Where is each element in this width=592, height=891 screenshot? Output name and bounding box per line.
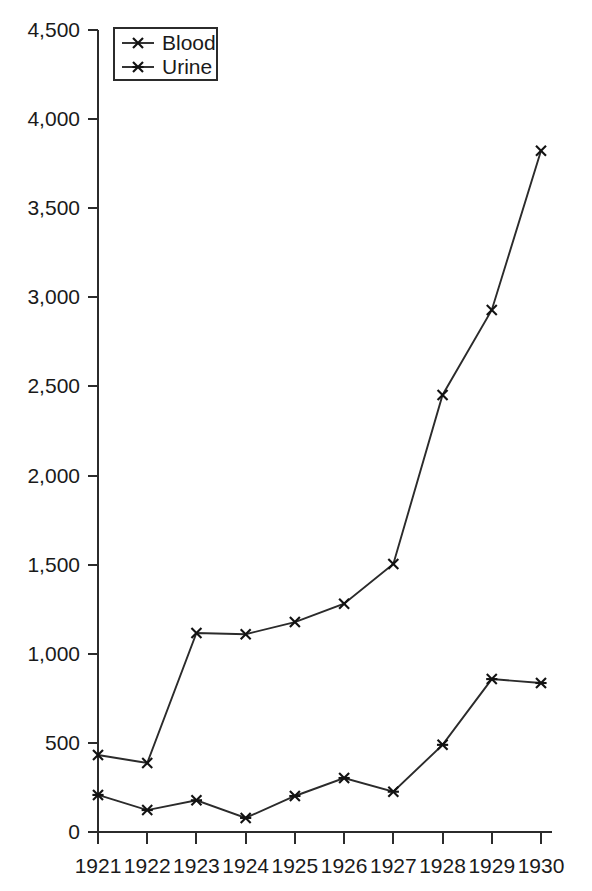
x-tick-label: 1928 bbox=[419, 854, 466, 877]
data-point-marker bbox=[437, 740, 448, 750]
y-tick-label: 2,000 bbox=[27, 464, 80, 487]
legend-label: Urine bbox=[162, 55, 212, 78]
y-tick-label: 1,000 bbox=[27, 642, 80, 665]
y-tick-label: 1,500 bbox=[27, 553, 80, 576]
data-point-marker bbox=[339, 599, 349, 609]
chart-container: 05001,0001,5002,0002,5003,0003,5004,0004… bbox=[0, 0, 592, 891]
y-tick-label: 0 bbox=[68, 820, 80, 843]
series-urine bbox=[92, 674, 546, 823]
series-line bbox=[98, 679, 541, 818]
data-point-marker bbox=[536, 146, 546, 156]
y-axis-ticks: 05001,0001,5002,0002,5003,0003,5004,0004… bbox=[27, 18, 98, 843]
x-axis-ticks: 1921192219231924192519261927192819291930 bbox=[75, 832, 565, 877]
data-point-marker bbox=[339, 773, 350, 783]
data-point-marker bbox=[486, 674, 497, 684]
y-tick-label: 3,500 bbox=[27, 196, 80, 219]
x-tick-label: 1921 bbox=[75, 854, 122, 877]
data-point-marker bbox=[388, 787, 399, 797]
data-point-marker bbox=[438, 390, 448, 400]
data-point-marker bbox=[388, 559, 398, 569]
chart-legend: BloodUrine bbox=[114, 28, 217, 80]
x-tick-label: 1926 bbox=[321, 854, 368, 877]
y-tick-label: 4,500 bbox=[27, 18, 80, 41]
data-point-marker bbox=[289, 791, 300, 801]
data-point-marker bbox=[487, 305, 497, 315]
data-point-marker bbox=[535, 678, 546, 688]
y-tick-label: 2,500 bbox=[27, 374, 80, 397]
y-tick-label: 500 bbox=[45, 731, 80, 754]
x-tick-label: 1924 bbox=[222, 854, 269, 877]
data-series-layer bbox=[92, 146, 546, 823]
x-tick-label: 1927 bbox=[370, 854, 417, 877]
line-chart: 05001,0001,5002,0002,5003,0003,5004,0004… bbox=[0, 0, 592, 891]
legend-label: Blood bbox=[162, 31, 216, 54]
x-tick-label: 1930 bbox=[518, 854, 565, 877]
data-point-marker bbox=[240, 813, 251, 823]
data-point-marker bbox=[191, 795, 202, 805]
series-line bbox=[98, 151, 541, 763]
x-tick-label: 1923 bbox=[173, 854, 220, 877]
x-tick-label: 1929 bbox=[468, 854, 515, 877]
series-blood bbox=[93, 146, 546, 768]
x-tick-label: 1922 bbox=[124, 854, 171, 877]
y-tick-label: 4,000 bbox=[27, 107, 80, 130]
data-point-marker bbox=[142, 805, 153, 815]
y-tick-label: 3,000 bbox=[27, 285, 80, 308]
x-tick-label: 1925 bbox=[272, 854, 319, 877]
